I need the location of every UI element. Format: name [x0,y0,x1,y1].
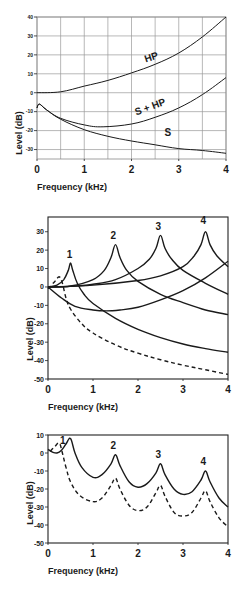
series-group [48,232,228,375]
x-tick-label: 3 [180,548,186,559]
y-tick-label: -40 [34,522,44,529]
x-tick-label: 4 [225,548,231,559]
y-tick-label: -30 [26,146,33,152]
x-tick-label: 0 [34,164,40,175]
y-tick-label: 0 [40,450,44,457]
peak-labels: 1234 [60,435,206,467]
plot-frame [48,217,228,379]
y-tick-label: -10 [34,302,44,309]
y-axis-label: Level (dB) [14,111,24,155]
y-tick-label: 10 [27,71,33,77]
y-tick-label: -10 [34,468,44,475]
y-axis-label: Level (dB) [25,481,35,525]
y-tick-label: -40 [34,357,44,364]
y-tick-label: -30 [34,339,44,346]
x-axis-ticks: 01234 [45,543,231,559]
y-axis-ticks: 100-10-20-30-40-50 [34,432,48,547]
series-label: S [165,127,172,138]
chart-bottom-panel: 100-10-20-30-40-5001234Frequency (kHz)Le… [25,432,231,577]
y-axis-ticks: 403020100-10-20-30 [26,14,37,153]
x-tick-label: 2 [135,384,141,395]
x-axis-ticks: 01234 [45,379,231,395]
peak-label: 2 [110,230,116,241]
y-tick-label: 30 [27,33,33,39]
y-tick-label: -10 [26,108,33,114]
y-tick-label: -20 [34,320,44,327]
y-axis-label: Level (dB) [25,317,35,361]
peak-label: 4 [200,456,206,467]
y-tick-label: -20 [26,127,33,133]
x-axis-ticks: 01234 [34,159,229,175]
y-tick-label: 20 [36,247,44,254]
y-tick-label: -50 [34,540,44,547]
x-tick-label: 1 [90,548,96,559]
y-tick-label: -20 [34,486,44,493]
y-axis-ticks: 3020100-10-20-30-40-50 [34,228,48,382]
x-tick-label: 2 [135,548,141,559]
y-tick-label: 0 [40,283,44,290]
peak-label: 1 [67,249,73,260]
x-tick-label: 1 [81,164,87,175]
peak-label: 1 [60,435,66,446]
peak-label: 3 [155,449,161,460]
x-tick-label: 4 [223,164,229,175]
y-tick-label: 20 [27,52,33,58]
series-line-solid [48,438,228,507]
y-tick-label: 0 [30,90,33,96]
peak-label: 4 [200,215,206,226]
chart-top-panel: 403020100-10-20-3001234Frequency (kHz)Le… [14,14,229,192]
y-tick-label: 10 [36,432,44,439]
series-group [48,438,228,527]
y-tick-label: -30 [34,504,44,511]
x-tick-label: 0 [45,384,51,395]
y-tick-label: 30 [36,228,44,235]
series-line-dashed [48,277,228,375]
x-axis-label: Frequency (kHz) [48,402,118,412]
peak-label: 2 [110,440,116,451]
series-label: HP [143,49,160,64]
x-tick-label: 4 [225,384,231,395]
x-axis-label: Frequency (kHz) [37,182,107,192]
chart-middle-panel: 3020100-10-20-30-40-5001234Frequency (kH… [25,215,231,412]
x-tick-label: 2 [129,164,135,175]
series-line-resonance-2 [48,245,228,315]
y-tick-label: 10 [36,265,44,272]
x-axis-label: Frequency (kHz) [48,566,118,576]
series-label: S + HP [133,96,167,117]
y-tick-label: 40 [27,14,33,20]
figure: 403020100-10-20-3001234Frequency (kHz)Le… [0,0,243,594]
y-tick-label: -50 [34,376,44,383]
peak-labels: 1234 [67,215,207,259]
x-tick-label: 3 [180,384,186,395]
x-tick-label: 1 [90,384,96,395]
grid [37,17,226,159]
x-tick-label: 3 [176,164,182,175]
x-tick-label: 0 [45,548,51,559]
peak-label: 3 [155,221,161,232]
